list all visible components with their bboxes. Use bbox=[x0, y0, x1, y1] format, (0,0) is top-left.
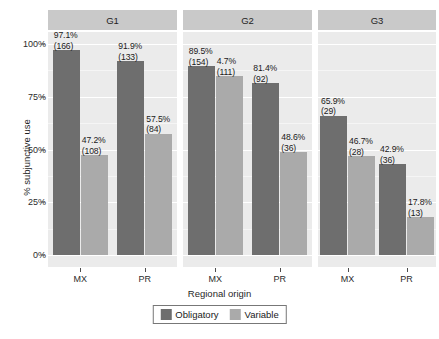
gridline-major bbox=[183, 255, 312, 256]
x-axis-tick-label-pr: PR bbox=[138, 274, 151, 284]
bar-label-count: (154) bbox=[189, 57, 213, 68]
y-axis-tick-mark bbox=[41, 202, 45, 203]
bar-label-count: (36) bbox=[281, 143, 305, 154]
bar-label-percent: 42.9% bbox=[380, 144, 404, 155]
legend-swatch-variable-icon bbox=[230, 309, 241, 320]
legend-item-obligatory[interactable]: Obligatory bbox=[160, 309, 218, 320]
y-axis-tick-label: 50% bbox=[2, 145, 46, 155]
x-axis-tick-label-pr: PR bbox=[400, 274, 413, 284]
bar-label: 65.9%(29) bbox=[321, 96, 345, 117]
x-axis-tick-mark bbox=[348, 268, 349, 272]
bar-label-percent: 47.2% bbox=[82, 135, 106, 146]
bar-label: 89.5%(154) bbox=[189, 46, 213, 67]
bar-label-percent: 97.1% bbox=[54, 30, 78, 41]
bar-label-count: (28) bbox=[349, 147, 373, 158]
bar-label-count: (13) bbox=[408, 208, 432, 219]
bar-label-percent: 81.4% bbox=[253, 63, 277, 74]
x-axis-tick-mark bbox=[145, 268, 146, 272]
x-axis-tick-label-mx: MX bbox=[74, 274, 88, 284]
x-axis-tick-label-pr: PR bbox=[273, 274, 286, 284]
chart-root: % subjunctive use 0%25%50%75%100% MXPRG1… bbox=[0, 0, 439, 339]
bar-label-count: (108) bbox=[82, 146, 106, 157]
bar-pr-obligatory[interactable] bbox=[252, 83, 279, 255]
bar-label: 47.2%(108) bbox=[82, 135, 106, 156]
bar-label: 97.1%(166) bbox=[54, 30, 78, 51]
facet-strip-label: G2 bbox=[183, 10, 312, 30]
bar-mx-variable[interactable] bbox=[348, 156, 375, 255]
bar-label-percent: 57.5% bbox=[146, 114, 170, 125]
x-axis-tick-mark bbox=[215, 268, 216, 272]
bar-label-count: (111) bbox=[217, 67, 236, 78]
legend: Obligatory Variable bbox=[152, 305, 286, 324]
gridline-major bbox=[183, 44, 312, 45]
legend-label-variable: Variable bbox=[245, 309, 279, 320]
y-axis-tick-mark bbox=[41, 255, 45, 256]
bar-label-count: (133) bbox=[118, 52, 142, 63]
bar-label-count: (29) bbox=[321, 106, 345, 117]
bar-mx-variable[interactable] bbox=[216, 76, 243, 255]
legend-swatch-obligatory-icon bbox=[160, 309, 171, 320]
bar-mx-variable[interactable] bbox=[81, 155, 108, 255]
bar-label: 46.7%(28) bbox=[349, 136, 373, 157]
bar-label-count: (166) bbox=[54, 41, 78, 52]
bar-label-percent: 91.9% bbox=[118, 41, 142, 52]
bar-label: 42.9%(36) bbox=[380, 144, 404, 165]
y-axis-tick-mark bbox=[41, 149, 45, 150]
bar-pr-variable[interactable] bbox=[280, 152, 307, 255]
bar-label-percent: 4.7% bbox=[217, 56, 236, 67]
bar-pr-obligatory[interactable] bbox=[117, 61, 144, 255]
bar-label: 48.6%(36) bbox=[281, 132, 305, 153]
bar-label-percent: 17.8% bbox=[408, 197, 432, 208]
y-axis-tick-mark bbox=[41, 96, 45, 97]
bar-label: 81.4%(92) bbox=[253, 63, 277, 84]
x-axis-tick-mark bbox=[407, 268, 408, 272]
bar-label: 17.8%(13) bbox=[408, 197, 432, 218]
bar-label-percent: 48.6% bbox=[281, 132, 305, 143]
bar-label: 57.5%(84) bbox=[146, 114, 170, 135]
x-axis-tick-label-mx: MX bbox=[341, 274, 355, 284]
plot-area: 89.5%(154)4.7%(111)81.4%(92)48.6%(36) bbox=[183, 32, 312, 267]
gridline-major bbox=[318, 44, 436, 45]
bar-pr-obligatory[interactable] bbox=[379, 164, 406, 255]
legend-label-obligatory: Obligatory bbox=[175, 309, 218, 320]
x-axis-tick-mark bbox=[80, 268, 81, 272]
y-axis-tick-label: 25% bbox=[2, 197, 46, 207]
x-axis-title: Regional origin bbox=[0, 288, 439, 299]
bar-pr-variable[interactable] bbox=[145, 134, 172, 255]
y-axis-tick-label: 100% bbox=[2, 39, 46, 49]
bar-mx-obligatory[interactable] bbox=[320, 116, 347, 255]
y-axis-tick-label: 75% bbox=[2, 92, 46, 102]
facet-panel-g1: G197.1%(166)47.2%(108)91.9%(133)57.5%(84… bbox=[48, 10, 177, 257]
gridline-major bbox=[48, 255, 177, 256]
facet-panel-g2: G289.5%(154)4.7%(111)81.4%(92)48.6%(36) bbox=[183, 10, 312, 257]
bar-label-percent: 65.9% bbox=[321, 96, 345, 107]
bar-pr-variable[interactable] bbox=[407, 217, 434, 255]
bar-label: 4.7%(111) bbox=[217, 56, 236, 77]
plot-area: 65.9%(29)46.7%(28)42.9%(36)17.8%(13) bbox=[318, 32, 436, 267]
bar-mx-obligatory[interactable] bbox=[188, 66, 215, 255]
bar-label-percent: 89.5% bbox=[189, 46, 213, 57]
x-axis-tick-label-mx: MX bbox=[209, 274, 223, 284]
facet-strip-label: G3 bbox=[318, 10, 436, 30]
gridline-minor bbox=[318, 70, 436, 71]
bar-label: 91.9%(133) bbox=[118, 41, 142, 62]
plot-area: 97.1%(166)47.2%(108)91.9%(133)57.5%(84) bbox=[48, 32, 177, 267]
bar-mx-obligatory[interactable] bbox=[53, 50, 80, 255]
bar-label-percent: 46.7% bbox=[349, 136, 373, 147]
legend-item-variable[interactable]: Variable bbox=[230, 309, 279, 320]
y-axis-tick-mark bbox=[41, 44, 45, 45]
gridline-major bbox=[318, 255, 436, 256]
facet-strip-label: G1 bbox=[48, 10, 177, 30]
bar-label-count: (84) bbox=[146, 124, 170, 135]
y-axis-tick-label: 0% bbox=[2, 250, 46, 260]
x-axis-tick-mark bbox=[280, 268, 281, 272]
bar-label-count: (36) bbox=[380, 155, 404, 166]
bar-label-count: (92) bbox=[253, 74, 277, 85]
facet-panel-g3: G365.9%(29)46.7%(28)42.9%(36)17.8%(13) bbox=[318, 10, 436, 257]
